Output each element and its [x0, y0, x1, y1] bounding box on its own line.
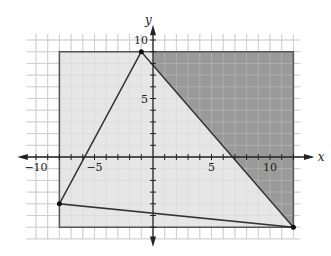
y-axis-arrow-down-icon	[150, 237, 156, 248]
y-axis-label: y	[144, 13, 152, 27]
x-axis-arrow-right-icon	[304, 154, 315, 160]
x-axis-arrow-left-icon	[17, 154, 28, 160]
x-tick-label: −10	[24, 161, 47, 174]
y-tick-label: 5	[141, 93, 148, 106]
x-tick-label: 5	[208, 161, 215, 174]
vertex-point	[291, 225, 296, 230]
vertex-point	[139, 49, 144, 54]
coordinate-plane: x y −10 −5 5 10 10 5	[0, 0, 331, 256]
vertex-point	[57, 201, 62, 206]
y-tick-label: 10	[134, 34, 148, 47]
x-tick-label: 10	[263, 161, 277, 174]
x-axis-label: x	[318, 150, 325, 164]
x-tick-label: −5	[86, 161, 102, 174]
